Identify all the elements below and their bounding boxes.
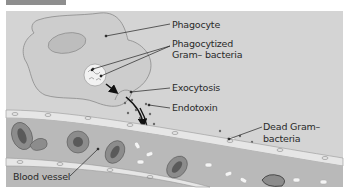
label-blood-vessel: Blood vessel: [13, 171, 70, 182]
label-phagocyte: Phagocyte: [172, 19, 220, 30]
label-phagocytized-line1: Phagocytized: [172, 38, 233, 49]
label-exocytosis: Exocytosis: [172, 82, 220, 93]
arrow-to-vessel: [126, 97, 143, 125]
label-endotoxin: Endotoxin: [172, 102, 218, 113]
label-dead-bacteria-line1: Dead Gram–: [263, 121, 320, 132]
label-phagocytized-line2: Gram– bacteria: [172, 49, 242, 60]
label-dead-bacteria-line2: bacteria: [263, 133, 300, 144]
